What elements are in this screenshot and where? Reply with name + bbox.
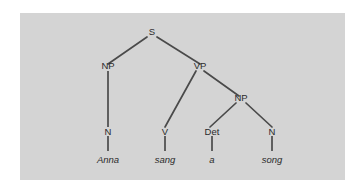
leaf-anna: Anna [96,154,119,165]
node-n-subject: N [105,126,112,137]
node-s: S [149,26,155,37]
edge-vp-to-v [165,71,196,127]
leaf-a: a [209,154,214,165]
syntax-tree-panel: S NP VP NP N V Det N Anna sang a song [20,13,345,180]
node-n-object: N [269,126,276,137]
node-np-object: NP [234,92,247,103]
syntax-tree-svg: S NP VP NP N V Det N Anna sang a song [20,13,345,180]
node-v: V [162,126,169,137]
leaf-song: song [262,154,283,165]
edge-np-object-to-det [210,103,236,127]
node-det: Det [205,126,220,137]
node-vp: VP [194,60,207,71]
figure-root: S NP VP NP N V Det N Anna sang a song [0,0,364,193]
node-np-subject: NP [101,60,114,71]
edge-np-object-to-n [246,103,272,127]
leaf-sang: sang [155,154,176,165]
